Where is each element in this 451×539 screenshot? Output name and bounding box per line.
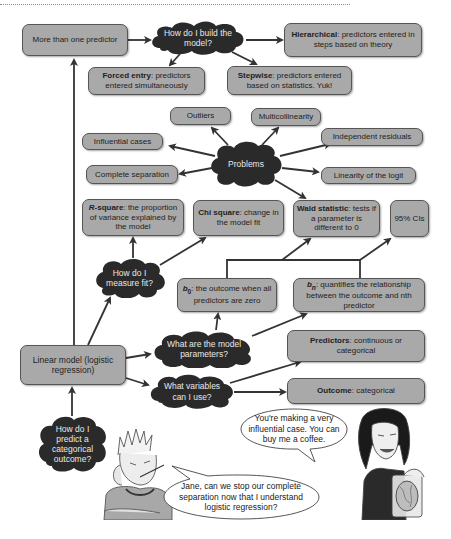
problem-independent-residuals-label: Independent residuals <box>333 132 412 142</box>
problem-multicollinearity-label: Multicollinearity <box>259 112 314 122</box>
r-square-box: R-square: the proportion of variance exp… <box>82 199 184 236</box>
model-parameters-question: What are the model parameters? <box>164 339 244 359</box>
start-question-cloud: How do I predict a categorical outcome? <box>36 414 109 474</box>
chi-square-text: Chi square: change in the model fit <box>197 208 280 227</box>
confidence-intervals-label: 95% CIs <box>394 214 424 224</box>
confidence-intervals-box: 95% CIs <box>390 200 429 237</box>
hierarchical-box: Hierarchical: predictors entered in step… <box>284 23 422 57</box>
student-speech-bubble: Jane, can we stop our complete separatio… <box>162 474 320 520</box>
more-than-one-predictor-box: More than one predictor <box>22 24 128 56</box>
problem-influential-cases-label: Influential cases <box>94 137 151 147</box>
problem-outliers-box: Outliers <box>170 107 231 125</box>
stepwise-text: Stepwise: predictors entered based on st… <box>231 71 348 90</box>
problem-influential-cases-box: Influential cases <box>82 133 163 150</box>
jane-speech-bubble: You're making a very influential case. Y… <box>240 408 348 450</box>
linear-model-box: Linear model (logistic regression) <box>20 345 126 385</box>
r-square-text: R-square: the proportion of variance exp… <box>86 203 180 232</box>
predictors-text: Predictors: continuous or categorical <box>291 336 421 355</box>
start-question: How do I predict a categorical outcome? <box>49 424 97 465</box>
problem-linearity-logit-label: Linearity of the logit <box>334 171 403 181</box>
problem-multicollinearity-box: Multicollinearity <box>251 108 321 126</box>
measure-fit-cloud: How do I measure fit? <box>93 258 166 298</box>
stepwise-box: Stepwise: predictors entered based on st… <box>227 66 352 95</box>
jane-speech-text: You're making a very influential case. Y… <box>248 413 340 445</box>
problem-linearity-logit-box: Linearity of the logit <box>321 167 416 184</box>
hierarchical-text: Hierarchical: predictors entered in step… <box>288 30 418 49</box>
b0-box: b0: the outcome when all predictors are … <box>177 278 277 312</box>
problem-outliers-label: Outliers <box>187 111 215 121</box>
wald-statistic-box: Wald statistic: tests if a parameter is … <box>293 200 380 237</box>
build-model-cloud: How do I build the model? <box>148 20 248 56</box>
variables-question: What variables can I use? <box>162 381 222 401</box>
bn-box: bn: quantifies the relationship between … <box>293 278 425 312</box>
measure-fit-question: How do I measure fit? <box>105 268 155 288</box>
problems-cloud: Problems <box>208 140 284 188</box>
b0-text: b0: the outcome when all predictors are … <box>181 284 273 305</box>
student-speech-text: Jane, can we stop our complete separatio… <box>174 481 309 513</box>
predictors-box: Predictors: continuous or categorical <box>287 330 425 362</box>
model-parameters-cloud: What are the model parameters? <box>150 330 258 368</box>
problem-independent-residuals-box: Independent residuals <box>321 128 423 146</box>
build-model-question: How do I build the model? <box>163 28 233 48</box>
more-than-one-predictor-label: More than one predictor <box>33 35 118 45</box>
forced-entry-text: Forced entry: predictors entered simulta… <box>92 71 201 90</box>
forced-entry-box: Forced entry: predictors entered simulta… <box>88 67 205 95</box>
outcome-box: Outcome: categorical <box>287 378 425 404</box>
outcome-text: Outcome: categorical <box>317 386 395 396</box>
jane-character-illustration <box>348 405 428 520</box>
variables-cloud: What variables can I use? <box>148 374 236 409</box>
chi-square-box: Chi square: change in the model fit <box>193 200 284 236</box>
problem-complete-separation-box: Complete separation <box>86 165 178 184</box>
linear-model-label: Linear model (logistic regression) <box>24 355 122 375</box>
problem-complete-separation-label: Complete separation <box>95 170 169 180</box>
problems-label: Problems <box>228 159 264 169</box>
bn-text: bn: quantifies the relationship between … <box>297 280 421 311</box>
wald-statistic-text: Wald statistic: tests if a parameter is … <box>297 204 376 233</box>
